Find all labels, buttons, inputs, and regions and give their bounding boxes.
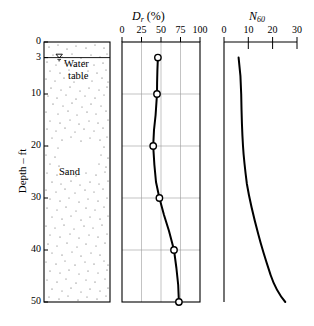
dr-tick-label-0: 0 (119, 24, 125, 35)
relative-density-panel (122, 37, 200, 305)
dr-marker (171, 247, 177, 253)
depth-tick-label-0: 0 (29, 35, 41, 46)
soil-type-label: Sand (59, 166, 80, 177)
depth-axis-title: Depth – ft (16, 131, 28, 211)
dr-tick-label-75: 75 (174, 24, 187, 35)
water-table-label-line1: Water (64, 58, 89, 69)
dr-tick-label-50: 50 (155, 24, 168, 35)
dr-gridlines (122, 42, 200, 302)
dr-panel-title: Dr (%) (132, 9, 165, 24)
depth-tick-label-50: 50 (23, 295, 41, 306)
n60-panel-title: N60 (249, 9, 265, 24)
dr-tick-label-100: 100 (191, 24, 209, 35)
spt-n60-panel (224, 37, 297, 302)
depth-tick-label-40: 40 (23, 243, 41, 254)
dr-tick-label-25: 25 (135, 24, 148, 35)
n60-tick-label-20: 20 (266, 24, 279, 35)
dr-marker (154, 91, 160, 97)
depth-tick-label-10: 10 (23, 87, 41, 98)
n60-axis-ticks (224, 37, 297, 49)
n60-tick-label-0: 0 (221, 24, 227, 35)
dr-axis-ticks (122, 37, 200, 42)
dr-marker (150, 143, 156, 149)
water-table-label-line2: table (68, 70, 88, 81)
dr-marker (156, 195, 162, 201)
depth-tick-label-3: 3 (29, 51, 41, 62)
soil-profile-figure (0, 0, 314, 326)
n60-tick-label-10: 10 (242, 24, 255, 35)
dr-title-symbol: D (132, 9, 141, 23)
dr-marker (155, 54, 161, 60)
dr-marker (176, 299, 182, 305)
dr-title-unit: (%) (147, 9, 165, 23)
n60-tick-label-30: 30 (291, 24, 304, 35)
n60-title-subscript: 60 (257, 15, 265, 24)
n60-title-symbol: N (249, 9, 257, 23)
n60-curve (239, 58, 286, 302)
